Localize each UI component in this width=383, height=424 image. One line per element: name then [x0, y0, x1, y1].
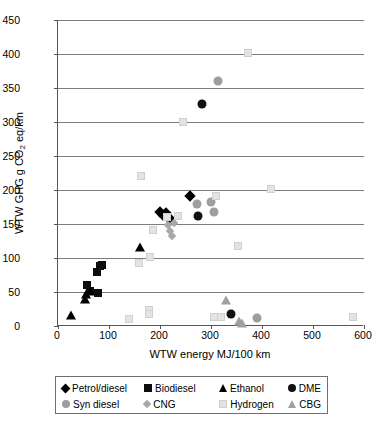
x-tick-label-300: 300 [190, 330, 230, 340]
y-tick-label-250: 250 [0, 151, 20, 161]
y-tick-label-200: 200 [0, 185, 20, 195]
x-tick-label-600: 600 [343, 330, 383, 340]
data-point [66, 311, 76, 320]
legend-marker-triangle-icon [219, 384, 227, 392]
data-point [145, 310, 153, 318]
data-point [149, 226, 157, 234]
gridline-y-400 [58, 54, 364, 55]
y-tick-label-350: 350 [0, 83, 20, 93]
data-point [135, 243, 145, 252]
x-tick-label-0: 0 [37, 330, 77, 340]
x-tick-label-500: 500 [292, 330, 332, 340]
x-axis-title: WTW energy MJ/100 km [57, 348, 363, 360]
y-tick-label-0: 0 [0, 321, 20, 331]
legend-marker-triangle-icon [288, 400, 296, 408]
gridline-y-250 [58, 156, 364, 157]
data-point [125, 315, 133, 323]
gridline-y-200 [58, 190, 364, 191]
legend-label: DME [299, 383, 321, 394]
data-point [252, 313, 261, 322]
legend-marker-small-diamond-icon [143, 400, 151, 408]
legend-marker-diamond-icon [61, 383, 71, 393]
legend-label: Ethanol [230, 383, 264, 394]
legend-entry-cng[interactable]: CNG [144, 399, 219, 410]
legend-entry-cbg[interactable]: CBG [288, 399, 321, 410]
data-point [221, 295, 231, 304]
legend-entry-hydrogen[interactable]: Hydrogen [219, 399, 288, 410]
legend-marker-circle-icon [62, 400, 70, 408]
y-tick-100 [54, 258, 58, 259]
data-point [212, 192, 220, 200]
y-tick-label-450: 450 [0, 15, 20, 25]
data-point [146, 253, 154, 261]
legend-label: Petrol/diesel [72, 383, 127, 394]
legend-marker-circle-icon [288, 384, 296, 392]
data-point [234, 242, 242, 250]
gridline-y-450 [58, 20, 364, 21]
y-tick-label-300: 300 [0, 117, 20, 127]
data-point [237, 319, 247, 328]
data-point [163, 213, 171, 221]
legend-label: Biodiesel [155, 383, 196, 394]
legend-entry-ethanol[interactable]: Ethanol [219, 383, 288, 394]
data-point [137, 172, 145, 180]
legend-marker-square-icon [144, 384, 152, 392]
data-point [98, 261, 106, 269]
legend-entry-syn-diesel[interactable]: Syn diesel [62, 399, 144, 410]
y-tick-200 [54, 190, 58, 191]
legend-label: CBG [299, 399, 321, 410]
data-point [85, 287, 95, 296]
y-tick-label-50: 50 [0, 287, 20, 297]
data-point [194, 211, 203, 220]
legend-marker-hollow-square-icon [219, 400, 227, 408]
plot-area [57, 20, 363, 326]
y-tick-150 [54, 224, 58, 225]
gridline-y-100 [58, 258, 364, 259]
scatter-chart: WTW GHG g CO2 eq/km 05010015020025030035… [0, 0, 383, 424]
data-point [209, 208, 218, 217]
legend-label: Hydrogen [230, 399, 273, 410]
data-point [349, 313, 357, 321]
data-point [198, 100, 207, 109]
x-tick-label-100: 100 [88, 330, 128, 340]
data-point [217, 313, 225, 321]
data-point [170, 219, 178, 227]
data-point [192, 199, 201, 208]
data-point [174, 212, 182, 220]
y-axis-title: WTW GHG g CO2 eq/km [12, 20, 26, 326]
legend-entry-petrol-diesel[interactable]: Petrol/diesel [62, 383, 144, 394]
legend-row-1: Petrol/dieselBiodieselEthanolDME [62, 380, 321, 396]
y-tick-50 [54, 292, 58, 293]
data-point [179, 118, 187, 126]
chart-legend: Petrol/dieselBiodieselEthanolDME Syn die… [55, 376, 328, 414]
y-tick-label-400: 400 [0, 49, 20, 59]
gridline-y-350 [58, 88, 364, 89]
y-tick-250 [54, 156, 58, 157]
legend-entry-biodiesel[interactable]: Biodiesel [144, 383, 219, 394]
gridline-y-50 [58, 292, 364, 293]
y-tick-300 [54, 122, 58, 123]
legend-label: Syn diesel [73, 399, 119, 410]
x-tick-label-400: 400 [241, 330, 281, 340]
y-tick-350 [54, 88, 58, 89]
data-point [244, 49, 252, 57]
y-tick-450 [54, 20, 58, 21]
y-tick-400 [54, 54, 58, 55]
legend-label: CNG [153, 399, 175, 410]
gridline-y-150 [58, 224, 364, 225]
data-point [167, 232, 175, 240]
x-tick-label-200: 200 [139, 330, 179, 340]
legend-entry-dme[interactable]: DME [288, 383, 321, 394]
y-tick-label-150: 150 [0, 219, 20, 229]
y-tick-label-100: 100 [0, 253, 20, 263]
data-point [135, 259, 143, 267]
data-point [213, 76, 222, 85]
legend-row-2: Syn dieselCNGHydrogenCBG [62, 396, 321, 412]
gridline-y-300 [58, 122, 364, 123]
data-point [267, 185, 275, 193]
